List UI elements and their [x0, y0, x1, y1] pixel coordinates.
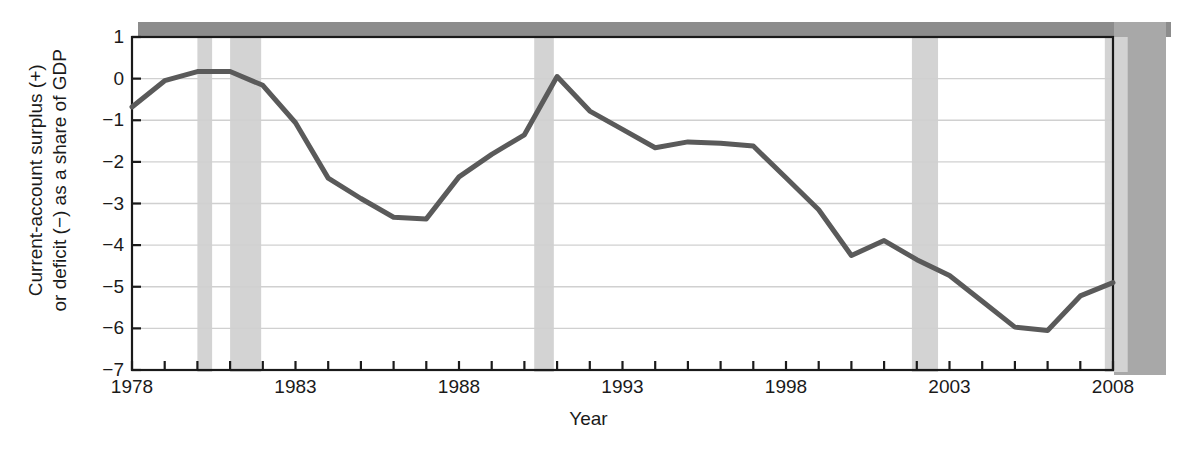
recession-band-recession-1980: [197, 37, 212, 372]
recession-band-recession-1981-1982: [230, 37, 261, 372]
recession-shading-layer: [197, 37, 1127, 372]
plot-area: [0, 0, 1177, 452]
data-line-layer: [132, 72, 1113, 331]
recession-band-recession-2007-2008: [1105, 37, 1128, 372]
data-series-current-account: [132, 72, 1113, 331]
page-shadow-band: [138, 22, 1171, 375]
recession-band-recession-2001: [912, 37, 938, 372]
chart-figure: Current-account surplus (+) or deficit (…: [0, 0, 1177, 452]
shadow-band-top: [138, 22, 1171, 37]
